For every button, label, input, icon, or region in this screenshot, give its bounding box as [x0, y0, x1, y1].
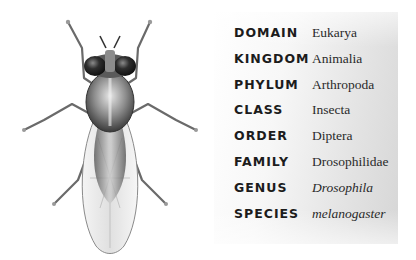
fly-illustration [20, 8, 200, 260]
rank-label: DOMAIN [234, 25, 312, 40]
rank-label: FAMILY [234, 154, 312, 169]
rank-label: GENUS [234, 180, 312, 195]
taxonomy-row-family: FAMILY Drosophilidae [234, 154, 389, 180]
rank-label: KINGDOM [234, 51, 312, 66]
taxon-value: Diptera [312, 128, 352, 144]
taxon-value: Insecta [312, 102, 350, 118]
taxon-value: Drosophila [312, 180, 373, 196]
taxonomy-list: DOMAIN Eukarya KINGDOM Animalia PHYLUM A… [234, 25, 389, 231]
taxonomy-row-order: ORDER Diptera [234, 128, 389, 154]
taxonomy-row-genus: GENUS Drosophila [234, 180, 389, 206]
taxon-value: Eukarya [312, 25, 357, 41]
taxonomy-row-phylum: PHYLUM Arthropoda [234, 77, 389, 103]
rank-label: ORDER [234, 128, 312, 143]
taxon-value: melanogaster [312, 206, 386, 222]
taxonomy-row-domain: DOMAIN Eukarya [234, 25, 389, 51]
taxonomy-row-class: CLASS Insecta [234, 102, 389, 128]
rank-label: PHYLUM [234, 77, 312, 92]
taxon-value: Drosophilidae [312, 154, 389, 170]
taxon-value: Arthropoda [312, 77, 374, 93]
taxon-value: Animalia [312, 51, 362, 67]
taxonomy-row-species: SPECIES melanogaster [234, 206, 389, 232]
rank-label: SPECIES [234, 206, 312, 221]
rank-label: CLASS [234, 102, 312, 117]
taxonomy-row-kingdom: KINGDOM Animalia [234, 51, 389, 77]
